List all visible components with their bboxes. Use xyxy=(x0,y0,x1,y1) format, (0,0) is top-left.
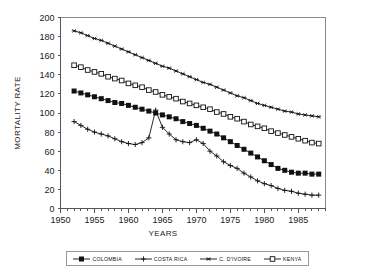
svg-text:180: 180 xyxy=(39,32,54,42)
svg-text:1955: 1955 xyxy=(84,215,104,225)
svg-text:200: 200 xyxy=(39,13,54,23)
svg-text:1975: 1975 xyxy=(220,215,240,225)
chart-series-costa-rica xyxy=(71,108,321,198)
open-square-icon xyxy=(264,255,281,263)
svg-text:100: 100 xyxy=(39,108,54,118)
chart-legend: COLOMBIACOSTA RICAC. D'IVOIREKENYA xyxy=(66,251,309,266)
chart-series-group xyxy=(71,29,321,198)
svg-text:80: 80 xyxy=(44,128,54,138)
chart-axes: 0204060801001201401601802001950195519601… xyxy=(39,13,325,225)
svg-text:40: 40 xyxy=(44,166,54,176)
svg-text:140: 140 xyxy=(39,70,54,80)
svg-text:YEARS: YEARS xyxy=(148,229,177,238)
svg-text:1980: 1980 xyxy=(254,215,274,225)
chart-figure: 0204060801001201401601802001950195519601… xyxy=(0,0,370,276)
svg-text:60: 60 xyxy=(44,147,54,157)
svg-text:1970: 1970 xyxy=(186,215,206,225)
legend-entry-costa-rica[interactable]: COSTA RICA xyxy=(135,255,188,263)
filled-square-icon xyxy=(73,255,90,263)
svg-text:0: 0 xyxy=(49,204,54,214)
legend-entry-c-d-ivoire[interactable]: C. D'IVOIRE xyxy=(200,255,251,263)
chart-series-kenya xyxy=(72,63,321,146)
legend-entry-colombia[interactable]: COLOMBIA xyxy=(73,255,121,263)
svg-text:1965: 1965 xyxy=(152,215,172,225)
svg-text:160: 160 xyxy=(39,51,54,61)
legend-label: C. D'IVOIRE xyxy=(219,256,251,262)
legend-entry-kenya[interactable]: KENYA xyxy=(264,255,301,263)
svg-text:20: 20 xyxy=(44,185,54,195)
chart-plot-area: 0204060801001201401601802001950195519601… xyxy=(0,0,370,276)
svg-text:1960: 1960 xyxy=(118,215,138,225)
cross-icon xyxy=(135,255,152,263)
svg-text:1985: 1985 xyxy=(288,215,308,225)
chart-axis-titles: MORTALITY RATEYEARS xyxy=(13,76,178,237)
svg-text:120: 120 xyxy=(39,89,54,99)
svg-text:1950: 1950 xyxy=(50,215,70,225)
legend-label: COLOMBIA xyxy=(92,256,121,262)
star-icon xyxy=(200,255,217,263)
legend-label: KENYA xyxy=(283,256,301,262)
legend-label: COSTA RICA xyxy=(154,256,188,262)
svg-text:MORTALITY RATE: MORTALITY RATE xyxy=(13,76,22,149)
